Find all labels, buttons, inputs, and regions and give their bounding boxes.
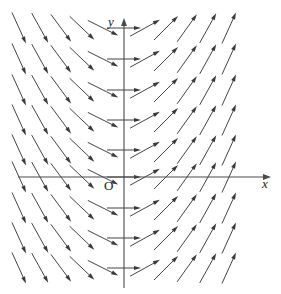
field-arrow-head [21, 246, 26, 253]
field-arrow-head [21, 276, 26, 283]
field-arrow-head [21, 185, 26, 192]
field-arrow-head [111, 93, 118, 98]
field-arrow-shaft [177, 109, 195, 134]
field-arrow-shaft [222, 108, 234, 135]
field-arrow-head [153, 230, 160, 235]
field-arrow-shaft [51, 45, 69, 69]
field-arrow-head [191, 14, 197, 21]
field-arrow-head [134, 266, 141, 270]
field-arrow-head [43, 98, 48, 105]
field-arrow-shaft [32, 162, 47, 188]
field-arrow-head [111, 62, 118, 67]
field-arrow-head [21, 216, 26, 223]
field-arrow-head [211, 13, 216, 20]
field-arrow-head [134, 118, 141, 122]
field-arrow-head [111, 241, 118, 246]
field-arrow-shaft [12, 162, 24, 189]
field-arrow-head [65, 157, 71, 164]
field-arrow-shaft [32, 13, 47, 39]
field-arrow-shaft [222, 226, 234, 253]
field-arrow-shaft [200, 79, 215, 105]
field-arrow-head [153, 169, 160, 174]
field-arrow-head [43, 128, 48, 135]
field-arrow-shaft [177, 197, 195, 222]
field-arrow-head [134, 236, 141, 240]
field-arrow-head [134, 26, 141, 30]
field-arrow-head [111, 123, 118, 128]
field-arrow-shaft [12, 253, 24, 280]
field-arrow-head [211, 223, 216, 230]
field-arrow-head [134, 88, 141, 92]
field-arrow-head [191, 106, 197, 113]
field-arrow-head [43, 246, 48, 253]
field-arrow-shaft [88, 230, 115, 243]
field-arrow-shaft [51, 224, 69, 248]
field-arrow-shaft [200, 48, 215, 74]
field-arrow-shaft [222, 256, 234, 283]
field-arrow-shaft [70, 138, 92, 159]
field-arrow-head [21, 128, 26, 135]
field-arrow-head [65, 66, 71, 73]
field-arrow-shaft [51, 76, 69, 100]
field-arrow-shaft [177, 227, 195, 252]
field-arrow-head [211, 75, 216, 82]
field-arrow-shaft [177, 79, 195, 104]
field-arrow-shaft [32, 105, 47, 131]
field-arrow-shaft [88, 200, 115, 213]
field-arrow-shaft [222, 138, 234, 165]
field-arrow-shaft [88, 142, 115, 155]
field-arrow-shaft [177, 257, 195, 282]
field-arrow-shaft [222, 165, 234, 192]
field-arrow-shaft [200, 197, 215, 223]
field-arrow-head [43, 216, 48, 223]
field-arrow-shaft [200, 109, 215, 135]
field-arrow-shaft [70, 196, 92, 217]
field-arrow-shaft [70, 226, 92, 247]
field-arrow-shaft [200, 139, 215, 165]
field-arrow-head [65, 275, 71, 282]
field-arrow-head [191, 136, 197, 143]
field-arrow-head [231, 162, 236, 169]
field-arrow-head [65, 35, 71, 42]
field-arrow-head [65, 184, 71, 191]
field-arrow-shaft [200, 166, 215, 192]
field-arrow-shaft [200, 227, 215, 253]
field-arrow-shaft [88, 82, 115, 95]
field-arrow-head [111, 31, 118, 36]
y-axis-label: y [108, 14, 114, 30]
field-arrow-head [65, 97, 71, 104]
field-arrow-shaft [70, 108, 92, 129]
field-arrow-head [111, 271, 118, 276]
field-arrow-head [211, 135, 216, 142]
field-arrow-shaft [12, 13, 24, 40]
field-arrow-head [231, 253, 236, 260]
field-arrow-shaft [12, 75, 24, 102]
field-arrow-head [191, 224, 197, 231]
field-arrow-head [134, 148, 141, 152]
field-arrow-head [231, 223, 236, 230]
y-axis-arrowhead [121, 18, 127, 26]
field-arrow-head [153, 82, 160, 87]
field-arrow-shaft [32, 135, 47, 161]
field-arrow-head [231, 135, 236, 142]
field-arrow-head [191, 254, 197, 261]
field-arrow-head [21, 98, 26, 105]
field-arrow-head [65, 215, 71, 222]
field-arrow-head [43, 36, 48, 43]
field-arrow-shaft [12, 135, 24, 162]
field-arrow-head [43, 276, 48, 283]
field-arrow-shaft [70, 256, 92, 277]
field-arrow-head [134, 206, 141, 210]
field-arrow-head [231, 75, 236, 82]
direction-field-canvas [0, 0, 281, 294]
field-arrow-head [211, 253, 216, 260]
field-arrow-shaft [51, 106, 69, 130]
field-arrow-shaft [177, 48, 195, 73]
axes-group [18, 18, 271, 288]
direction-field-figure: y x O [0, 0, 281, 294]
field-arrow-head [211, 193, 216, 200]
field-arrow-shaft [177, 17, 195, 42]
field-arrow-shaft [12, 105, 24, 132]
field-arrow-head [21, 67, 26, 74]
field-arrow-shaft [70, 165, 92, 186]
